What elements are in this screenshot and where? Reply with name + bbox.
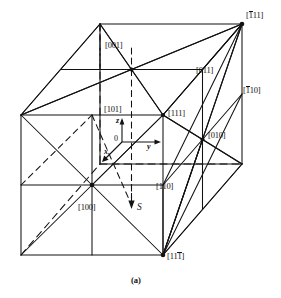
origin-label: 0 bbox=[114, 135, 118, 143]
direction-label-101: [101] bbox=[104, 105, 121, 114]
figure-caption: (a) bbox=[131, 276, 141, 285]
direction-label-001: [001] bbox=[105, 41, 122, 50]
index-h-overbar: 1 bbox=[246, 86, 250, 95]
bracket-close: ] bbox=[182, 108, 185, 118]
direction-label-bar110: [110] bbox=[243, 86, 260, 95]
direction-label-11bar1: [111] bbox=[167, 252, 184, 261]
direction-label-110: [110] bbox=[156, 182, 173, 191]
direction-label-010: [010] bbox=[208, 131, 225, 140]
x-axis-label: x bbox=[104, 148, 108, 156]
bracket-close: ] bbox=[119, 104, 122, 114]
bracket-close: ] bbox=[93, 202, 96, 212]
bracket-close: ] bbox=[223, 130, 226, 140]
bracket-close: ] bbox=[120, 40, 123, 50]
cube-drawing bbox=[0, 0, 281, 298]
bracket-close: ] bbox=[258, 85, 261, 95]
bracket-close: ] bbox=[211, 65, 214, 75]
bracket-close: ] bbox=[182, 251, 185, 261]
bracket-close: ] bbox=[171, 181, 174, 191]
index-h-overbar: 1 bbox=[249, 11, 253, 20]
direction-label-100: [100] bbox=[78, 203, 95, 212]
body-diagonal bbox=[92, 115, 163, 185]
z-axis-label: z bbox=[116, 117, 119, 125]
corner-rays-bottom-right bbox=[163, 140, 203, 256]
index-l-overbar: 1 bbox=[177, 252, 181, 261]
direction-label-011: [011] bbox=[196, 66, 213, 75]
direction-label-111: [111] bbox=[168, 109, 185, 118]
s-vector-label: S bbox=[137, 203, 142, 213]
bracket-close: ] bbox=[261, 10, 264, 20]
figure-canvas: [001] [101] [111] [011] [111] [110] [010… bbox=[0, 0, 281, 298]
direction-label-bar111: [111] bbox=[246, 11, 263, 20]
y-axis-label: y bbox=[147, 143, 151, 151]
